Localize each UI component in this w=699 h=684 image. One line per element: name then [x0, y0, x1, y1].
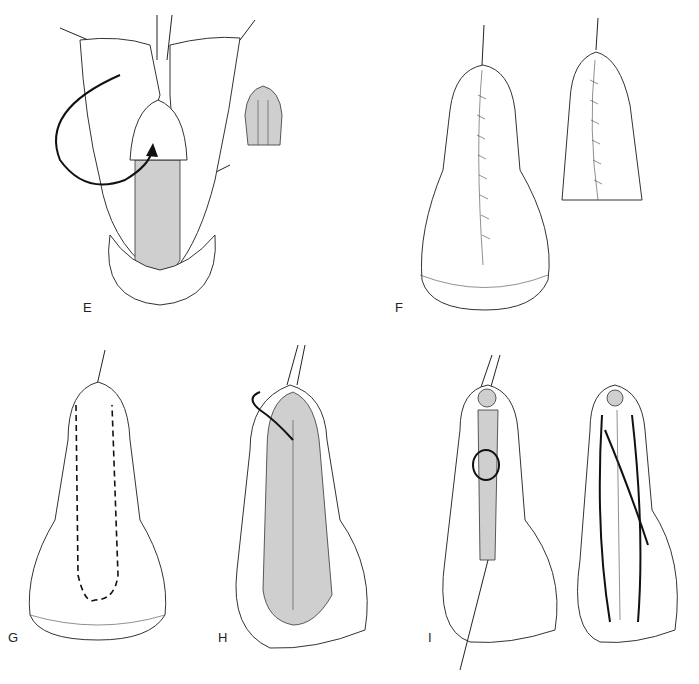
- panel-e: E: [0, 0, 360, 330]
- organ-outline: [443, 385, 557, 643]
- panel-label-f: F: [395, 300, 403, 315]
- illustration-g: [0, 330, 205, 660]
- retractor-line: [240, 20, 255, 40]
- catheter-line: [297, 345, 305, 385]
- inset-repaired-glans: [562, 52, 642, 200]
- inset-glans-detail: [245, 86, 282, 145]
- panel-label-e: E: [83, 300, 92, 315]
- panel-i: I: [420, 330, 699, 675]
- catheter-line: [480, 355, 492, 390]
- needle-line: [97, 350, 105, 385]
- shaft: [135, 160, 180, 280]
- illustration-i: [420, 330, 699, 675]
- illustration-e: [0, 0, 360, 330]
- panel-label-g: G: [8, 630, 18, 645]
- illustration-f: [380, 0, 699, 330]
- panel-f: F: [380, 0, 699, 330]
- organ-outline-repaired: [578, 385, 678, 643]
- meatus: [607, 390, 623, 406]
- panel-label-i: I: [428, 630, 432, 645]
- needle-line: [482, 25, 484, 65]
- organ-outline: [29, 382, 165, 640]
- urethral-tube: [478, 410, 498, 560]
- needle-line: [596, 18, 598, 50]
- catheter-line: [287, 345, 298, 385]
- panel-h: H: [205, 330, 420, 660]
- panel-g: G: [0, 330, 205, 660]
- catheter-line: [490, 355, 500, 390]
- meatus: [478, 389, 496, 407]
- panel-label-h: H: [218, 630, 227, 645]
- illustration-h: [205, 330, 420, 660]
- repaired-organ: [421, 65, 549, 310]
